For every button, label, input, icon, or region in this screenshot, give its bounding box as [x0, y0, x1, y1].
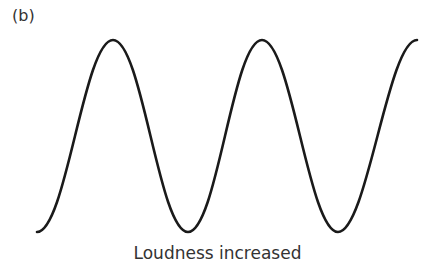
caption: Loudness increased	[0, 243, 435, 263]
wave-path	[37, 40, 417, 232]
sound-wave	[0, 0, 435, 275]
